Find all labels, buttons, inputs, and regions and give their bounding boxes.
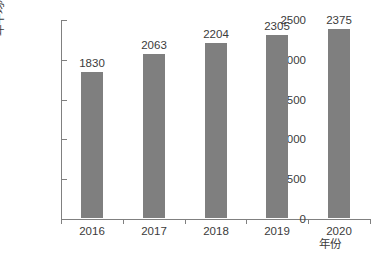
bar (143, 54, 165, 218)
x-axis-category-label: 2017 (124, 226, 184, 238)
bar-value-label: 2305 (247, 21, 307, 33)
x-axis-tick (123, 219, 124, 224)
y-axis-title: 年平均利用小时数/h (0, 0, 6, 36)
y-axis-tick (62, 100, 67, 101)
y-axis-tick (62, 139, 67, 140)
x-axis-category-label: 2019 (247, 226, 307, 238)
x-axis-category-label: 2020 (309, 226, 369, 238)
plot-area: 05001000150020002500 1830206322042305237… (61, 20, 370, 219)
bar-value-label: 1830 (62, 58, 122, 70)
x-axis-tick (185, 219, 186, 224)
x-axis-category-label: 2018 (186, 226, 246, 238)
y-axis-tick (62, 219, 67, 220)
bar (266, 35, 288, 218)
x-axis-tick (61, 219, 62, 224)
bar-value-label: 2375 (309, 15, 369, 27)
x-axis-spine (61, 219, 371, 220)
chart-figure: 年平均利用小时数/h 年份 05001000150020002500 18302… (0, 0, 380, 265)
y-axis-tick-label: 500 (287, 174, 306, 186)
y-axis-tick (62, 20, 67, 21)
bar (328, 29, 350, 218)
bar (81, 72, 103, 218)
bar (205, 43, 227, 218)
y-axis-tick (62, 179, 67, 180)
x-axis-tick (308, 219, 309, 224)
y-axis-tick-label: 0 (300, 214, 306, 226)
x-axis-tick (370, 219, 371, 224)
x-axis-title: 年份 (319, 239, 341, 251)
y-axis-spine (61, 20, 62, 220)
x-axis-category-label: 2016 (62, 226, 122, 238)
bar-value-label: 2204 (186, 29, 246, 41)
bar-value-label: 2063 (124, 40, 184, 52)
x-axis-tick (246, 219, 247, 224)
